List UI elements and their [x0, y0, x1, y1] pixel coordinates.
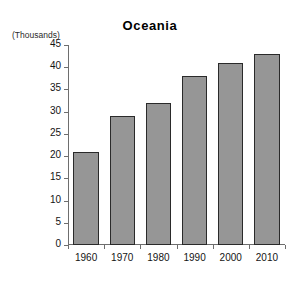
y-tick-label: 5 [55, 216, 61, 227]
y-tick-label: 45 [50, 38, 61, 49]
y-tick-mark [64, 89, 69, 90]
y-tick-mark [64, 223, 69, 224]
x-axis-label: 2010 [249, 252, 285, 263]
x-axis-label: 1980 [140, 252, 176, 263]
x-tick-mark [104, 245, 105, 249]
x-tick-mark [249, 245, 250, 249]
x-axis-label: 2000 [213, 252, 249, 263]
y-tick-mark [64, 45, 69, 46]
bar-chart: (Thousands) Oceania 051015202530354045 1… [0, 0, 300, 287]
y-tick-mark [64, 156, 69, 157]
y-tick-label: 30 [50, 105, 61, 116]
y-tick-mark [64, 112, 69, 113]
x-tick-mark [285, 245, 286, 249]
y-tick-mark [64, 178, 69, 179]
y-tick-label: 0 [55, 238, 61, 249]
bar[interactable] [146, 103, 171, 245]
plot-area: 051015202530354045 [68, 45, 285, 245]
bars-layer [68, 45, 285, 245]
y-tick-mark [64, 134, 69, 135]
bar[interactable] [182, 76, 207, 245]
y-tick-label: 25 [50, 127, 61, 138]
x-axis-label: 1970 [104, 252, 140, 263]
chart-title: Oceania [0, 18, 300, 33]
y-tick-mark [64, 201, 69, 202]
x-tick-mark [68, 245, 69, 249]
x-tick-mark [213, 245, 214, 249]
bar[interactable] [218, 63, 243, 245]
y-tick-label: 15 [50, 171, 61, 182]
x-axis-label: 1960 [68, 252, 104, 263]
y-tick-label: 20 [50, 149, 61, 160]
x-tick-mark [140, 245, 141, 249]
x-axis-labels: 196019701980199020002010 [68, 252, 285, 268]
x-axis-label: 1990 [177, 252, 213, 263]
bar[interactable] [110, 116, 135, 245]
x-tick-mark [177, 245, 178, 249]
y-tick-label: 10 [50, 194, 61, 205]
y-tick-label: 35 [50, 82, 61, 93]
y-tick-label: 40 [50, 60, 61, 71]
bar[interactable] [254, 54, 279, 245]
y-tick-mark [64, 67, 69, 68]
bar[interactable] [73, 152, 98, 245]
